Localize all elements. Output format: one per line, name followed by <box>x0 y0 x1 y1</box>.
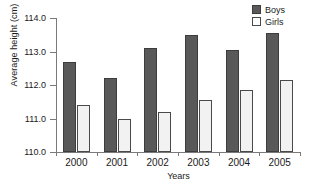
legend-item-boys: Boys <box>252 4 285 15</box>
x-axis-tick-label-2003: 2003 <box>187 157 209 168</box>
x-axis-tick <box>219 152 220 156</box>
bar-boys-2002 <box>144 48 157 152</box>
y-axis-tick-label: 114.0 <box>12 13 46 23</box>
x-axis-title: Years <box>56 171 301 181</box>
x-axis-tick <box>259 152 260 156</box>
x-axis-tick <box>97 152 98 156</box>
chart-legend: BoysGirls <box>252 4 285 28</box>
legend-label: Girls <box>265 17 284 27</box>
bar-girls-2003 <box>199 100 212 152</box>
legend-swatch-girls <box>252 17 261 26</box>
bar-girls-2004 <box>240 90 253 152</box>
x-axis-tick <box>300 152 301 156</box>
bar-boys-2000 <box>63 62 76 152</box>
x-axis-tick-label-2004: 2004 <box>228 157 250 168</box>
legend-label: Boys <box>265 5 285 15</box>
bar-boys-2001 <box>104 78 117 152</box>
x-axis-tick-label-2000: 2000 <box>65 157 87 168</box>
x-axis-tick <box>137 152 138 156</box>
y-axis-tick-label: 112.0 <box>12 80 46 90</box>
bar-girls-2001 <box>118 119 131 153</box>
bar-girls-2000 <box>77 105 90 152</box>
x-axis-tick <box>178 152 179 156</box>
x-axis-tick <box>56 152 57 156</box>
bar-chart: Average height (cm) 110.0111.0112.0113.0… <box>0 0 314 187</box>
y-axis-tick-label: 111.0 <box>12 114 46 124</box>
bar-boys-2004 <box>226 50 239 152</box>
bar-girls-2002 <box>158 112 171 152</box>
y-axis-tick-label: 110.0 <box>12 147 46 157</box>
legend-item-girls: Girls <box>252 16 285 27</box>
bar-girls-2005 <box>280 80 293 152</box>
bar-boys-2005 <box>266 33 279 152</box>
x-axis-tick-label-2001: 2001 <box>106 157 128 168</box>
plot-area <box>56 18 300 152</box>
bar-boys-2003 <box>185 35 198 152</box>
x-axis-tick-label-2002: 2002 <box>147 157 169 168</box>
legend-swatch-boys <box>252 5 261 14</box>
y-axis-tick-label: 113.0 <box>12 47 46 57</box>
x-axis-tick-label-2005: 2005 <box>269 157 291 168</box>
